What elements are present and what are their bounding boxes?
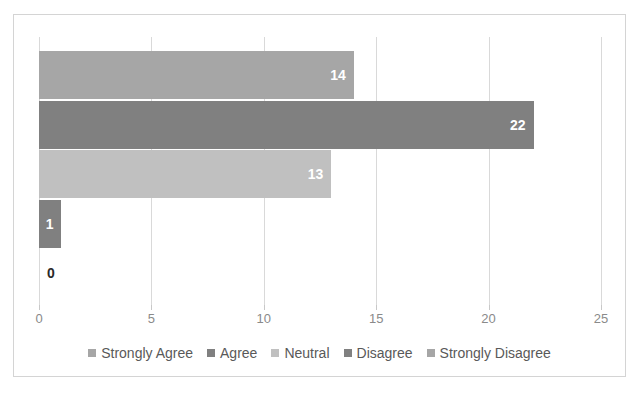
- bar[interactable]: [39, 101, 534, 149]
- legend-item-label: Disagree: [357, 345, 413, 361]
- bar-value-label: 22: [510, 117, 526, 133]
- x-axis-tick-labels: 0510152025: [39, 311, 601, 331]
- tick-mark-0: [39, 305, 40, 310]
- legend-swatch-icon: [344, 349, 352, 357]
- legend-swatch-icon: [88, 349, 96, 357]
- legend-swatch-icon: [427, 349, 435, 357]
- tick-mark-10: [264, 305, 265, 310]
- legend-item-label: Agree: [220, 345, 257, 361]
- legend-item[interactable]: Strongly Disagree: [427, 345, 551, 361]
- bar-row[interactable]: 1: [39, 200, 601, 248]
- bar-row[interactable]: 13: [39, 150, 601, 198]
- chart-frame: 14221310 0510152025 Strongly AgreeAgreeN…: [13, 14, 626, 377]
- tick-mark-15: [376, 305, 377, 310]
- legend-item[interactable]: Agree: [207, 345, 257, 361]
- bar-row[interactable]: 14: [39, 51, 601, 99]
- x-tick-label: 0: [35, 311, 42, 326]
- x-tick-label: 20: [481, 311, 495, 326]
- tick-mark-20: [489, 305, 490, 310]
- bar-value-label: 14: [330, 67, 346, 83]
- tick-mark-5: [151, 305, 152, 310]
- legend-item-label: Neutral: [284, 345, 329, 361]
- bar-value-label: 0: [47, 265, 55, 281]
- gridline-25: [601, 37, 602, 305]
- x-tick-label: 25: [594, 311, 608, 326]
- tick-mark-25: [601, 305, 602, 310]
- x-tick-label: 15: [369, 311, 383, 326]
- legend-swatch-icon: [271, 349, 279, 357]
- legend-item[interactable]: Strongly Agree: [88, 345, 193, 361]
- x-tick-label: 10: [257, 311, 271, 326]
- legend-item[interactable]: Disagree: [344, 345, 413, 361]
- legend-item-label: Strongly Agree: [101, 345, 193, 361]
- chart-legend: Strongly AgreeAgreeNeutralDisagreeStrong…: [14, 345, 625, 361]
- bar-row[interactable]: 22: [39, 101, 601, 149]
- plot-area: 14221310: [39, 37, 601, 305]
- bar-value-label: 1: [46, 216, 54, 232]
- legend-swatch-icon: [207, 349, 215, 357]
- bar[interactable]: [39, 51, 354, 99]
- bar-value-label: 13: [308, 166, 324, 182]
- legend-item-label: Strongly Disagree: [440, 345, 551, 361]
- x-tick-label: 5: [148, 311, 155, 326]
- bar[interactable]: [39, 150, 331, 198]
- bar-row[interactable]: 0: [39, 249, 601, 297]
- legend-item[interactable]: Neutral: [271, 345, 329, 361]
